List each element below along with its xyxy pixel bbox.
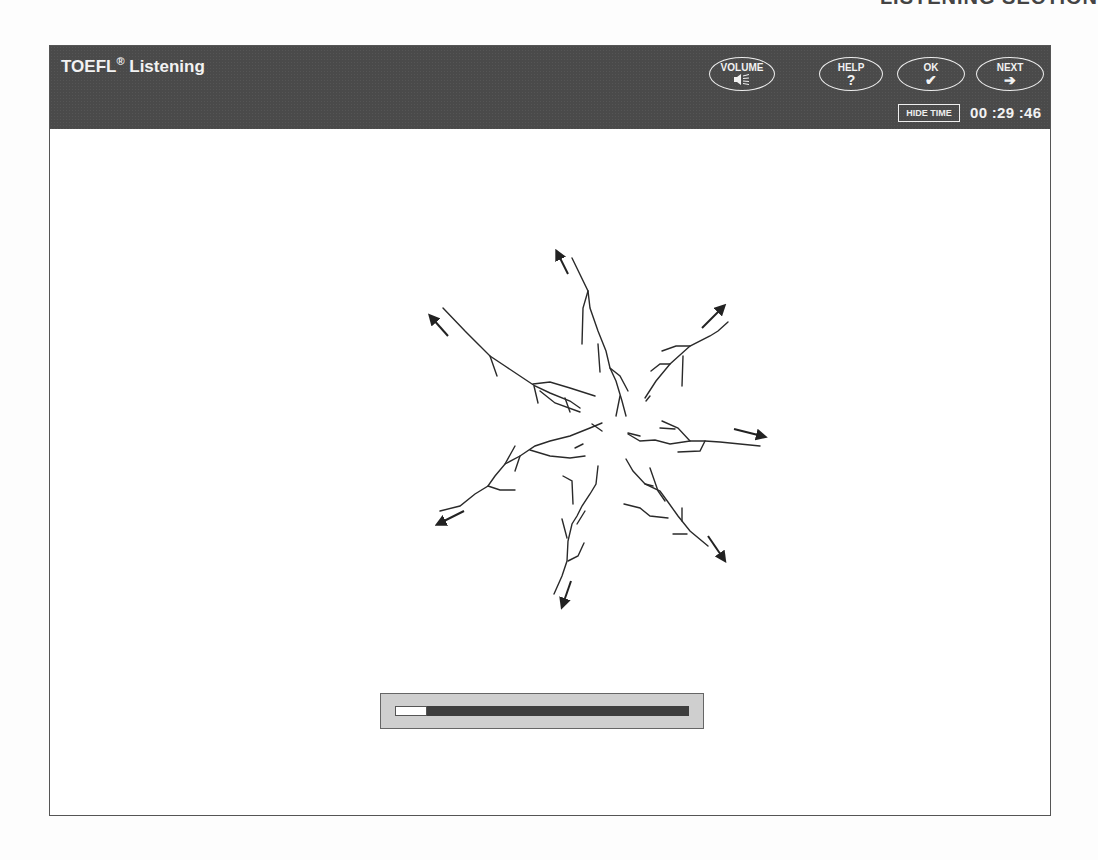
registered-mark: ® xyxy=(116,55,124,67)
countdown-timer: 00 :29 :46 xyxy=(970,104,1041,121)
arrow-right-icon: ➔ xyxy=(1004,73,1016,87)
app-title-suffix: Listening xyxy=(125,57,205,76)
radial-cracks-diagram xyxy=(370,186,790,636)
test-window: TOEFL® Listening VOLUME HELP ? OK ✔ NEXT… xyxy=(49,45,1051,816)
speaker-icon xyxy=(734,73,750,87)
next-label: NEXT xyxy=(997,62,1024,73)
volume-label: VOLUME xyxy=(721,62,764,73)
ok-button[interactable]: OK ✔ xyxy=(897,57,965,91)
app-title-text: TOEFL xyxy=(61,57,116,76)
checkmark-icon: ✔ xyxy=(925,73,937,87)
help-button[interactable]: HELP ? xyxy=(819,57,883,91)
title-bar: TOEFL® Listening VOLUME HELP ? OK ✔ NEXT… xyxy=(50,46,1050,129)
ok-label: OK xyxy=(924,62,939,73)
next-button[interactable]: NEXT ➔ xyxy=(976,57,1044,91)
app-title: TOEFL® Listening xyxy=(61,55,205,77)
audio-progress-bar xyxy=(380,693,704,729)
page-header-remnant: LISTENING SECTION xyxy=(880,0,1098,9)
progress-fill xyxy=(395,706,427,716)
volume-button[interactable]: VOLUME xyxy=(709,57,775,91)
question-icon: ? xyxy=(847,73,856,87)
progress-track xyxy=(395,706,689,716)
help-label: HELP xyxy=(838,62,865,73)
hide-time-button[interactable]: HIDE TIME xyxy=(898,104,960,122)
